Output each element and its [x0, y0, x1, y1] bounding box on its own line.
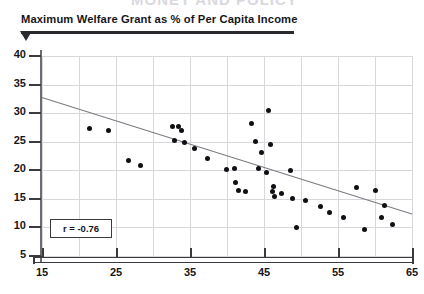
scatter-point [182, 140, 187, 145]
scatter-point [279, 191, 284, 196]
gridline-vertical [301, 56, 302, 256]
gridline-vertical [153, 56, 154, 256]
scatter-point [106, 128, 111, 133]
y-axis-label: 35 [0, 77, 26, 89]
scatter-point [256, 166, 261, 171]
y-axis-tick [29, 112, 41, 114]
gridline-vertical [190, 56, 191, 256]
x-axis-tick [42, 248, 44, 257]
x-axis-label: 35 [175, 266, 205, 278]
scatter-point [224, 167, 229, 172]
y-axis-tick [29, 198, 41, 200]
scatter-point [205, 156, 210, 161]
scatter-point [253, 139, 258, 144]
gridline-vertical [338, 56, 339, 256]
y-axis-tick [29, 55, 41, 57]
scatter-point [232, 166, 237, 171]
gridline-horizontal [42, 256, 412, 257]
y-axis-tick [29, 255, 41, 257]
scatter-point [266, 108, 271, 113]
x-axis-label: 55 [323, 266, 353, 278]
x-axis-label: 25 [101, 266, 131, 278]
x-axis-right-cap [412, 256, 414, 264]
x-axis-tick [190, 248, 192, 257]
y-axis-label: 10 [0, 219, 26, 231]
y-axis-label: 15 [0, 191, 26, 203]
x-axis-label: 15 [27, 266, 57, 278]
scatter-point [303, 198, 308, 203]
y-axis-label: 25 [0, 134, 26, 146]
scatter-point [272, 194, 277, 199]
chart-page: MONEY AND POLICY Maximum Welfare Grant a… [0, 0, 424, 294]
y-axis-label: 5 [0, 248, 26, 260]
x-axis-label: 65 [397, 266, 424, 278]
scatter-point [327, 210, 332, 215]
gridline-vertical [116, 56, 117, 256]
gridline-vertical [42, 56, 43, 256]
scatter-point [379, 215, 384, 220]
scatter-point [268, 142, 273, 147]
x-axis-left-cap [33, 256, 35, 264]
gridline-vertical [264, 56, 265, 256]
title-underline [21, 31, 294, 34]
scatter-point [341, 215, 346, 220]
scatter-point [288, 168, 293, 173]
scatter-point [172, 138, 177, 143]
scatter-point [233, 180, 238, 185]
y-axis-label: 20 [0, 162, 26, 174]
cutoff-headline-text: MONEY AND POLICY [131, 0, 298, 8]
scatter-point [179, 128, 184, 133]
scatter-point [382, 203, 387, 208]
scatter-point [354, 185, 359, 190]
scatter-point [362, 227, 367, 232]
scatter-point [318, 204, 323, 209]
y-axis-tick [29, 226, 41, 228]
page-title: Maximum Welfare Grant as % of Per Capita… [21, 13, 298, 25]
cutoff-headline-band: MONEY AND POLICY [0, 0, 424, 9]
x-axis-tick [116, 248, 118, 257]
scatter-point [290, 196, 295, 201]
x-axis-baseline [33, 262, 414, 263]
triangle-pointer-icon [20, 31, 32, 41]
y-axis-tick [29, 141, 41, 143]
scatter-point [373, 188, 378, 193]
y-axis-tick [29, 169, 41, 171]
scatter-point [249, 121, 254, 126]
scatter-point [294, 225, 299, 230]
scatter-point [243, 189, 248, 194]
scatter-point [170, 124, 175, 129]
gridline-vertical [375, 56, 376, 256]
y-axis-label: 30 [0, 105, 26, 117]
scatter-point [236, 188, 241, 193]
correlation-annotation-box: r = -0.76 [50, 219, 112, 238]
scatter-point [390, 222, 395, 227]
scatter-point [192, 146, 197, 151]
scatter-point [126, 158, 131, 163]
y-axis-tick [29, 84, 41, 86]
x-axis-label: 45 [249, 266, 279, 278]
y-axis-label: 40 [0, 48, 26, 60]
x-axis-tick [412, 248, 414, 257]
scatter-point [138, 163, 143, 168]
scatter-point [87, 126, 92, 131]
x-axis-tick [338, 248, 340, 257]
gridline-vertical [412, 56, 413, 256]
x-axis-tick [264, 248, 266, 257]
scatter-point [259, 150, 264, 155]
